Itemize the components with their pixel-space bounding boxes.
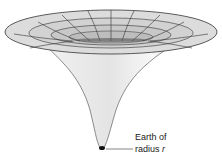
label-radius: radius r bbox=[135, 144, 165, 154]
earth-mass bbox=[99, 146, 105, 150]
label-radius-text: radius bbox=[135, 144, 162, 154]
label-earth-of: Earth of bbox=[135, 132, 167, 142]
label-radius-var: r bbox=[162, 144, 165, 154]
funnel-illustration bbox=[0, 0, 222, 158]
diagram: Earth of radius r bbox=[0, 0, 222, 158]
